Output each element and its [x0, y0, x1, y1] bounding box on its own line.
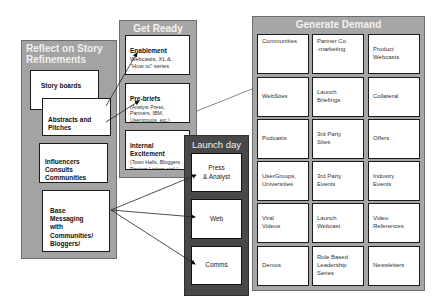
- get-ready-title: Get Ready: [120, 24, 196, 35]
- abstracts-pitches-label: Abstracts and Pitches: [48, 116, 91, 131]
- story-boards-label: Story boards: [41, 82, 81, 89]
- demand-cell-label: Product Webcasts: [373, 46, 399, 62]
- demand-cell-label: Launch Briefings: [317, 89, 340, 105]
- generate-demand-title: Generate Demand: [253, 20, 424, 31]
- demand-cell-label: 3rd Party Events: [317, 173, 341, 189]
- demand-cell[interactable]: 3rd Party Sites: [312, 119, 364, 159]
- demand-cell[interactable]: Video References: [368, 203, 420, 243]
- demand-cell[interactable]: Podcasts: [257, 119, 309, 159]
- demand-cell[interactable]: Viral Videos: [257, 203, 309, 243]
- demand-cell[interactable]: Offers: [368, 119, 420, 159]
- comms-box[interactable]: Comms: [191, 246, 242, 285]
- demand-cell[interactable]: Demos: [257, 246, 309, 286]
- demand-cell-label: Video References: [373, 215, 404, 231]
- launch-day-title: Launch day: [185, 140, 248, 150]
- press-analyst-box[interactable]: Press & Analyst: [191, 153, 242, 192]
- demand-cell[interactable]: Newsletters: [368, 246, 420, 286]
- base-messaging-label: Base Messaging with Communities/ Blogger…: [50, 207, 93, 247]
- demand-cell-label: Role Based Leadership Series: [317, 254, 348, 277]
- line-getready-to-demand: [197, 89, 252, 111]
- demand-cell-label: WebSites: [262, 93, 288, 101]
- enablement-detail: Webcasts, XL & "How to" series: [130, 56, 185, 70]
- demand-cell-label: Viral Videos: [262, 215, 280, 231]
- pre-briefs-box[interactable]: Pre-briefs (Analyst Press, Partners, IBM…: [125, 83, 190, 123]
- demand-cell-label: Partner Co -marketing: [317, 38, 346, 54]
- web-label: Web: [210, 215, 223, 223]
- internal-excitement-box[interactable]: Internal Excitement (Town Halls, Blogger…: [125, 130, 190, 170]
- abstracts-pitches-box[interactable]: Abstracts and Pitches: [42, 98, 111, 136]
- demand-cell-label: Podcasts: [262, 135, 287, 143]
- demand-cell[interactable]: UserGroups, Universities: [257, 161, 309, 201]
- launch-day-panel: Launch day Press & Analyst Web Comms: [184, 135, 249, 296]
- pre-briefs-label: Pre-briefs: [130, 95, 160, 102]
- reflect-panel-title: Reflect on Story Refinements: [22, 44, 116, 65]
- demand-cell[interactable]: Role Based Leadership Series: [312, 246, 364, 286]
- web-box[interactable]: Web: [191, 199, 242, 239]
- internal-excitement-detail: (Town Halls, Bloggers Posters,Letters,et…: [130, 159, 185, 170]
- influencers-box[interactable]: Influencers Consults Communities: [39, 143, 108, 183]
- demand-cell-label: UserGroups, Universities: [262, 173, 296, 189]
- demand-cell[interactable]: Industry Events: [368, 161, 420, 201]
- demand-cell-label: Communities: [262, 38, 297, 46]
- enablement-box[interactable]: Enablement Webcasts, XL & "How to" serie…: [125, 35, 190, 75]
- pre-briefs-detail: (Analyst Press, Partners, IBM, Usergroup…: [130, 104, 185, 124]
- demand-cell-label: Offers: [373, 135, 389, 143]
- demand-cell[interactable]: Collateral: [368, 77, 420, 117]
- base-messaging-box[interactable]: Base Messaging with Communities/ Blogger…: [42, 190, 110, 252]
- demand-cell[interactable]: Communities: [257, 34, 309, 74]
- demand-cell-label: 3rd Party Sites: [317, 131, 341, 147]
- enablement-label: Enablement: [130, 47, 167, 54]
- demand-cell[interactable]: WebSites: [257, 77, 309, 117]
- demand-cell[interactable]: Partner Co -marketing: [312, 34, 364, 74]
- demand-cell-label: Industry Events: [373, 173, 394, 189]
- demand-cell-label: Newsletters: [373, 262, 404, 270]
- press-analyst-label: Press & Analyst: [203, 164, 230, 180]
- arrow-base-to-web: [111, 210, 195, 217]
- demand-cell[interactable]: Launch Webcast: [312, 203, 364, 243]
- internal-excitement-label: Internal Excitement: [130, 142, 165, 157]
- demand-cell[interactable]: Product Webcasts: [368, 34, 420, 74]
- demand-cell-label: Launch Webcast: [317, 215, 340, 231]
- influencers-label: Influencers Consults Communities: [45, 158, 86, 181]
- demand-cell[interactable]: Launch Briefings: [312, 77, 364, 117]
- demand-cell-label: Collateral: [373, 93, 398, 101]
- demand-cell-label: Demos: [262, 262, 281, 270]
- demand-cell[interactable]: 3rd Party Events: [312, 161, 364, 201]
- arrow-base-to-comms: [111, 210, 195, 264]
- comms-label: Comms: [205, 261, 227, 269]
